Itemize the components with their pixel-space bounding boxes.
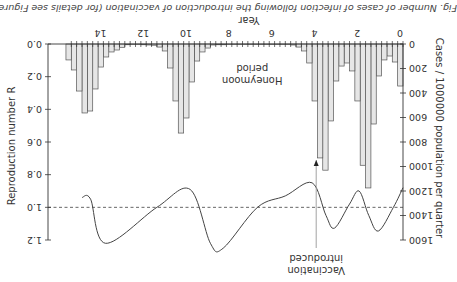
x-tick-label: 14 <box>94 28 106 39</box>
case-bar <box>162 44 167 51</box>
x-tick-label: 2 <box>354 28 360 39</box>
cases-bars <box>66 44 403 188</box>
case-bar <box>109 44 114 52</box>
case-bar <box>189 44 194 82</box>
case-bar <box>312 44 317 101</box>
figure-caption: Fig. Number of cases of infection follow… <box>0 0 457 14</box>
left-tick-label: 600 <box>409 112 427 123</box>
left-tick-label: 200 <box>409 63 427 74</box>
case-bar <box>178 44 183 133</box>
x-axis-title: Year <box>237 15 260 26</box>
right-tick-label: 1.2 <box>27 235 42 246</box>
x-tick-label: 4 <box>311 28 317 39</box>
right-tick-label: 0.8 <box>27 169 42 180</box>
case-bar <box>194 44 199 61</box>
x-tick-label: 6 <box>269 28 275 39</box>
right-tick-label: 0.6 <box>27 137 42 148</box>
case-bar <box>77 44 82 91</box>
case-bar <box>66 44 71 60</box>
case-bar <box>103 44 108 57</box>
reproduction-number-curve <box>82 182 403 252</box>
x-tick-label: 10 <box>180 28 192 39</box>
case-bar <box>339 44 344 66</box>
case-bar <box>350 44 355 71</box>
right-tick-label: 0.2 <box>27 71 42 82</box>
left-tick-label: 1600 <box>409 235 433 246</box>
chart-figure: 0246810121402004006008001000120014001600… <box>0 0 457 282</box>
honeymoon-label-line1: Honeymoon <box>222 75 282 86</box>
left-tick-label: 1000 <box>409 161 433 172</box>
case-bar <box>317 44 322 158</box>
case-bar <box>168 44 173 68</box>
left-tick-label: 1400 <box>409 210 433 221</box>
case-bar <box>307 44 312 63</box>
case-bar <box>296 44 301 47</box>
case-bar <box>114 44 119 50</box>
case-bar <box>376 44 381 76</box>
honeymoon-annotation: Honeymoon period <box>222 63 282 86</box>
case-bar <box>387 44 392 56</box>
case-bar <box>184 44 189 118</box>
x-tick-label: 0 <box>397 28 403 39</box>
case-bar <box>301 44 306 51</box>
case-bar <box>205 44 210 48</box>
case-bar <box>98 44 103 67</box>
left-tick-label: 400 <box>409 88 427 99</box>
right-tick-label: 0.0 <box>27 39 42 50</box>
case-bar <box>398 44 403 86</box>
case-bar <box>71 44 76 70</box>
x-tick-label: 8 <box>226 28 232 39</box>
vaccination-annotation: Vaccination introduced <box>287 160 345 276</box>
case-bar <box>157 44 162 47</box>
dual-axis-chart: 0246810121402004006008001000120014001600… <box>0 0 457 282</box>
case-bar <box>87 44 92 111</box>
case-bar <box>333 44 338 81</box>
case-bar <box>366 44 371 188</box>
right-tick-label: 1.0 <box>27 202 42 213</box>
case-bar <box>392 44 397 62</box>
case-bar <box>355 44 360 101</box>
case-bar <box>371 44 376 124</box>
case-bar <box>82 44 87 113</box>
case-bar <box>382 44 387 60</box>
left-tick-label: 800 <box>409 137 427 148</box>
x-tick-label: 12 <box>137 28 149 39</box>
right-tick-label: 0.4 <box>27 104 42 115</box>
case-bar <box>360 44 365 165</box>
case-bar <box>173 44 178 101</box>
arrow-head-icon <box>314 160 319 166</box>
left-tick-label: 0 <box>409 39 415 50</box>
case-bar <box>328 44 333 121</box>
left-axis-title: Cases / 1000000 population per quarter <box>434 38 445 239</box>
honeymoon-label-line2: period <box>236 63 268 74</box>
vaccination-label-line1: Vaccination <box>287 265 345 276</box>
case-bar <box>200 44 205 52</box>
left-tick-label: 1200 <box>409 186 433 197</box>
right-axis-title: Reproduction number R <box>6 87 17 206</box>
vaccination-label-line2: introduced <box>289 253 343 264</box>
case-bar <box>93 44 98 89</box>
case-bar <box>344 44 349 63</box>
case-bar <box>119 44 124 47</box>
case-bar <box>323 44 328 170</box>
